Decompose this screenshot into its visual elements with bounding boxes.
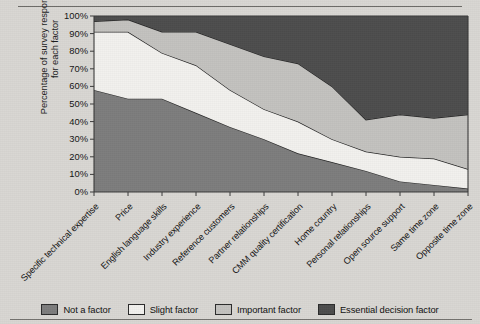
legend-label-2: Important factor	[237, 304, 301, 315]
legend-item-2[interactable]: Important factor	[215, 304, 301, 315]
legend-label-1: Slight factor	[150, 304, 198, 315]
chart-legend: Not a factorSlight factorImportant facto…	[0, 304, 480, 315]
legend-item-1[interactable]: Slight factor	[128, 304, 198, 315]
legend-swatch-icon-3	[318, 304, 335, 315]
legend-item-0[interactable]: Not a factor	[41, 304, 110, 315]
legend-item-3[interactable]: Essential decision factor	[318, 304, 439, 315]
legend-swatch-icon-1	[128, 304, 145, 315]
stacked-area-chart	[0, 0, 480, 324]
area-series-group	[94, 16, 468, 192]
legend-label-3: Essential decision factor	[340, 304, 439, 315]
legend-label-0: Not a factor	[63, 304, 110, 315]
legend-swatch-icon-0	[41, 304, 58, 315]
legend-swatch-icon-2	[215, 304, 232, 315]
chart-page: Percentage of survey responses for each …	[0, 0, 480, 324]
plot-area	[0, 0, 480, 324]
